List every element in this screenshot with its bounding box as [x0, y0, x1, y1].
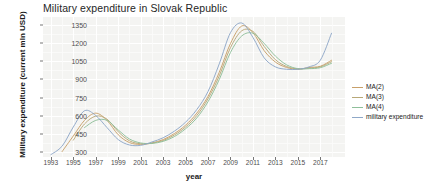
x-axis-label: year [43, 172, 345, 181]
x-tick-mark [73, 157, 74, 160]
legend-color-swatch-icon [352, 103, 363, 110]
y-tick-label: 1350 [71, 22, 87, 29]
x-tick-label: 1993 [44, 159, 59, 166]
chart-figure: Military expenditure in Slovak Republic … [0, 0, 436, 191]
x-tick-label: 2003 [156, 159, 171, 166]
legend-label: MA(4) [366, 103, 384, 110]
x-tick-mark [96, 157, 97, 160]
plot-panel [43, 17, 345, 157]
y-tick-mark [40, 25, 43, 26]
y-tick-mark [40, 43, 43, 44]
x-tick-label: 2017 [313, 159, 328, 166]
x-tick-mark [275, 157, 276, 160]
x-tick-mark [208, 157, 209, 160]
x-tick-label: 1999 [111, 159, 126, 166]
series-line-2 [85, 33, 332, 144]
series-line-3 [51, 23, 332, 155]
x-tick-mark [298, 157, 299, 160]
x-tick-mark [186, 157, 187, 160]
x-tick-label: 2009 [223, 159, 238, 166]
x-tick-mark [118, 157, 119, 160]
y-tick-label: 1200 [71, 40, 87, 47]
legend-item[interactable]: MA(4) [352, 102, 423, 111]
x-tick-label: 2007 [201, 159, 216, 166]
legend-color-swatch-icon [352, 113, 363, 120]
legend-label: military expenditure [366, 113, 423, 120]
x-tick-mark [320, 157, 321, 160]
y-tick-mark [40, 61, 43, 62]
x-tick-label: 1997 [88, 159, 103, 166]
y-tick-label: 750 [75, 94, 87, 101]
y-tick-mark [40, 115, 43, 116]
legend-item[interactable]: MA(3) [352, 92, 423, 101]
y-tick-label: 900 [75, 76, 87, 83]
legend-label: MA(3) [366, 93, 384, 100]
x-tick-mark [51, 157, 52, 160]
x-tick-mark [230, 157, 231, 160]
y-tick-label: 1050 [71, 58, 87, 65]
legend-item[interactable]: MA(2) [352, 82, 423, 91]
legend-label: MA(2) [366, 83, 384, 90]
x-tick-label: 2015 [291, 159, 306, 166]
y-tick-mark [40, 97, 43, 98]
x-tick-mark [141, 157, 142, 160]
x-tick-label: 2011 [246, 159, 260, 166]
series-line-0 [62, 26, 331, 152]
x-tick-label: 2013 [268, 159, 283, 166]
y-tick-mark [40, 133, 43, 134]
series-layer [43, 17, 345, 157]
y-tick-mark [40, 151, 43, 152]
y-tick-label: 300 [75, 148, 87, 155]
x-tick-label: 2001 [133, 159, 148, 166]
y-tick-label: 600 [75, 112, 87, 119]
legend-item[interactable]: military expenditure [352, 112, 423, 121]
legend-color-swatch-icon [352, 83, 363, 90]
legend-color-swatch-icon [352, 93, 363, 100]
y-tick-label: 450 [75, 130, 87, 137]
x-tick-label: 1995 [66, 159, 81, 166]
x-tick-mark [163, 157, 164, 160]
x-tick-label: 2005 [178, 159, 193, 166]
y-tick-mark [40, 79, 43, 80]
y-axis-label: Military expenditure (current mln USD) [18, 10, 27, 160]
chart-legend: MA(2)MA(3)MA(4)military expenditure [352, 82, 423, 121]
x-tick-mark [253, 157, 254, 160]
chart-title: Military expenditure in Slovak Republic [43, 2, 227, 14]
